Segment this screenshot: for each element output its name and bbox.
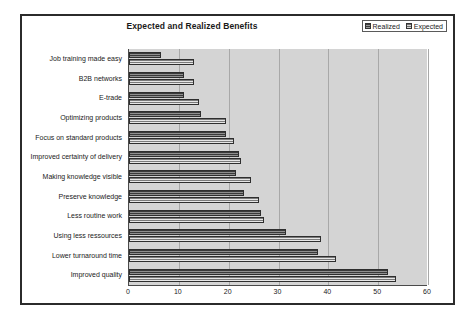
y-axis-label: Job training made easy xyxy=(50,55,122,63)
bar-realized xyxy=(129,131,226,137)
bar-realized xyxy=(129,210,261,216)
bar-expected xyxy=(129,79,194,85)
y-axis-label: Lower turnaround time xyxy=(52,252,122,260)
legend-swatch-realized-icon xyxy=(365,23,371,29)
legend-swatch-expected-icon xyxy=(406,23,412,29)
y-axis-label: Improved certainty of delivery xyxy=(31,153,122,161)
y-axis-category-labels: Job training made easyB2B networksE-trad… xyxy=(22,49,125,285)
y-axis-label: Less routine work xyxy=(67,212,122,220)
bar-rows xyxy=(129,49,427,285)
bar-expected xyxy=(129,197,259,203)
bar-group xyxy=(129,147,427,167)
bar-realized xyxy=(129,170,236,176)
x-axis-tick-label: 40 xyxy=(323,288,331,295)
y-axis-label: Improved quality xyxy=(71,271,122,279)
bar-group xyxy=(129,265,427,285)
bar-realized xyxy=(129,190,244,196)
bar-group xyxy=(129,128,427,148)
bar-realized xyxy=(129,111,201,117)
y-axis-label: E-trade xyxy=(99,94,122,102)
y-axis-label: Optimizing products xyxy=(60,114,122,122)
bar-group xyxy=(129,226,427,246)
bar-group xyxy=(129,49,427,69)
bar-group xyxy=(129,206,427,226)
legend-entry-expected: Expected xyxy=(406,23,443,30)
y-axis-label: Using less ressources xyxy=(54,232,122,240)
bar-realized xyxy=(129,229,286,235)
y-axis-label: Focus on standard products xyxy=(35,134,122,142)
y-axis-label: Making knowledge visible xyxy=(43,173,122,181)
bar-expected xyxy=(129,158,241,164)
bar-realized xyxy=(129,92,184,98)
x-axis-tick-labels: 0102030405060 xyxy=(128,288,427,300)
bar-group xyxy=(129,88,427,108)
bar-group xyxy=(129,187,427,207)
x-axis-tick-label: 50 xyxy=(373,288,381,295)
legend-label-expected: Expected xyxy=(414,23,443,30)
bar-group xyxy=(129,167,427,187)
bar-group xyxy=(129,69,427,89)
bar-expected xyxy=(129,276,396,282)
x-axis-tick-label: 60 xyxy=(423,288,431,295)
chart-title: Expected and Realized Benefits xyxy=(22,21,362,31)
bar-realized xyxy=(129,269,388,275)
x-axis-tick-label: 30 xyxy=(274,288,282,295)
x-axis-tick-label: 0 xyxy=(126,288,130,295)
x-axis-tick-label: 20 xyxy=(224,288,232,295)
bar-expected xyxy=(129,99,199,105)
y-axis-label: B2B networks xyxy=(79,75,122,83)
bar-expected xyxy=(129,59,194,65)
bar-expected xyxy=(129,118,226,124)
plot-area xyxy=(128,49,427,285)
chart-legend: Realized Expected xyxy=(362,20,447,32)
bar-realized xyxy=(129,72,184,78)
legend-entry-realized: Realized xyxy=(365,23,400,30)
legend-label-realized: Realized xyxy=(373,23,400,30)
bar-expected xyxy=(129,138,234,144)
chart-frame: Expected and Realized Benefits Realized … xyxy=(20,14,455,305)
x-axis-line xyxy=(128,285,427,286)
bar-expected xyxy=(129,217,264,223)
bar-group xyxy=(129,246,427,266)
bar-expected xyxy=(129,256,336,262)
gridline xyxy=(428,49,429,285)
bar-expected xyxy=(129,236,321,242)
bar-realized xyxy=(129,249,318,255)
y-axis-label: Preserve knowledge xyxy=(59,193,122,201)
bar-group xyxy=(129,108,427,128)
bar-realized xyxy=(129,151,239,157)
x-axis-tick-label: 10 xyxy=(174,288,182,295)
bar-expected xyxy=(129,177,251,183)
bar-realized xyxy=(129,52,161,58)
